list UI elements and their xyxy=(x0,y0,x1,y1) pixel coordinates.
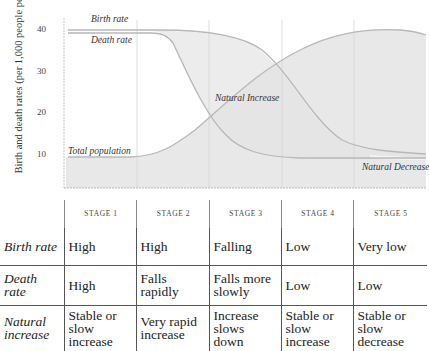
table-cell: Stable or slow increase xyxy=(281,305,353,351)
table-cell: Stable or slow decrease xyxy=(353,305,427,351)
table-row-birth-rate: Birth rate High High Falling Low Very lo… xyxy=(0,228,427,265)
table-cell: Low xyxy=(353,265,427,305)
stage-3-header: STAGE 3 xyxy=(209,200,282,228)
stage-2-header: STAGE 2 xyxy=(136,200,210,228)
table-cell: Low xyxy=(281,265,353,305)
stage-headers: STAGE 1 STAGE 2 STAGE 3 STAGE 4 STAGE 5 xyxy=(0,192,427,228)
y-tick-30: 30 xyxy=(30,66,46,76)
total-population-label: Total population xyxy=(68,146,131,156)
row-label: Death rate xyxy=(0,265,64,305)
death-rate-label: Death rate xyxy=(91,35,132,45)
table-cell: Falls rapidly xyxy=(136,265,209,305)
y-tick-40: 40 xyxy=(30,24,46,34)
table-cell: Stable or slow increase xyxy=(64,305,136,351)
row-label: Natural increase xyxy=(0,305,64,351)
table-cell: Increase slows down xyxy=(209,305,281,351)
table-row-natural-increase: Natural increase Stable or slow increase… xyxy=(0,305,427,351)
table-row-death-rate: Death rate High Falls rapidly Falls more… xyxy=(0,265,427,305)
y-tick-10: 10 xyxy=(30,149,46,159)
table-cell: Very rapid increase xyxy=(136,305,209,351)
y-tick-20: 20 xyxy=(30,107,46,117)
row-label: Birth rate xyxy=(0,228,64,265)
stage-5-header: STAGE 5 xyxy=(353,200,428,228)
table-cell: Very low xyxy=(353,228,427,265)
stage-characteristics-table: Birth rate High High Falling Low Very lo… xyxy=(0,228,427,351)
demographic-transition-chart: Birth and death rates (per 1,000 people … xyxy=(0,0,427,192)
table-cell: Falling xyxy=(209,228,281,265)
table-cell: High xyxy=(64,228,136,265)
birth-rate-label: Birth rate xyxy=(91,14,128,24)
y-axis-label: Birth and death rates (per 1,000 people … xyxy=(13,14,24,174)
stage-1-header: STAGE 1 xyxy=(64,200,137,228)
stage-4-header: STAGE 4 xyxy=(281,200,354,228)
natural-decrease-label: Natural Decrease xyxy=(362,162,429,172)
table-cell: Low xyxy=(281,228,353,265)
table-cell: High xyxy=(136,228,209,265)
table-cell: Falls more slowly xyxy=(209,265,281,305)
table-cell: High xyxy=(64,265,136,305)
natural-increase-label: Natural Increase xyxy=(215,93,279,103)
